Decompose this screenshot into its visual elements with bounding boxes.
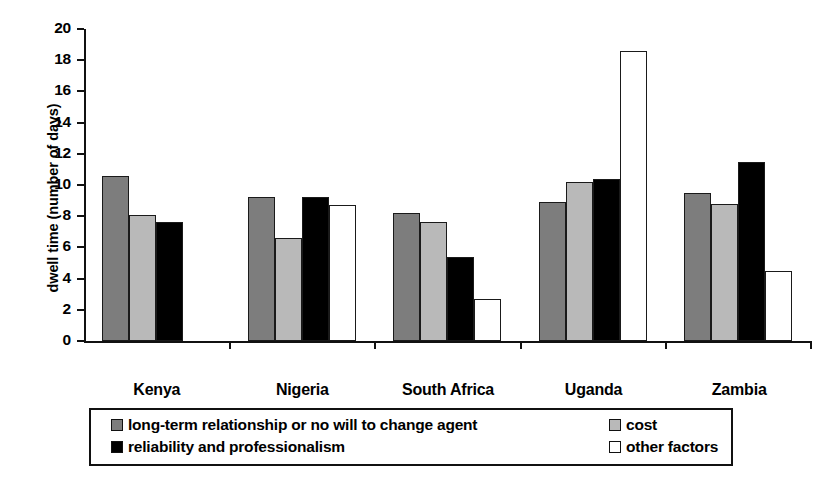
plot-area: 02468101214161820 KenyaNigeriaSouth Afri… [84, 29, 812, 341]
y-axis-tick-label: 16 [31, 81, 71, 99]
x-axis-category-label: Zambia [666, 381, 812, 399]
legend-label: reliability and professionalism [128, 438, 345, 456]
x-axis-category-label: Nigeria [230, 381, 376, 399]
x-axis-tick [374, 341, 376, 349]
bar [156, 222, 183, 341]
y-axis-tick-label: 6 [31, 237, 71, 255]
bar [765, 271, 792, 341]
x-axis-category-label: South Africa [375, 381, 521, 399]
bar-chart: dwell time (number of days) 024681012141… [0, 0, 837, 479]
x-axis-category-label: Uganda [521, 381, 667, 399]
legend-entry-long-term-relationship: long-term relationship or no will to cha… [111, 416, 477, 434]
legend-label: long-term relationship or no will to cha… [128, 416, 477, 434]
x-axis-line [84, 341, 812, 343]
bar [447, 257, 474, 341]
light-gray-swatch-icon [609, 419, 621, 431]
bar [566, 182, 593, 341]
legend-label: other factors [626, 438, 718, 456]
dark-gray-swatch-icon [111, 419, 123, 431]
bar [302, 197, 329, 341]
y-axis-tick [77, 215, 84, 217]
y-axis-tick [77, 122, 84, 124]
y-axis-tick [77, 184, 84, 186]
bar [620, 51, 647, 341]
bar [129, 215, 156, 341]
y-axis-tick-label: 18 [31, 50, 71, 68]
legend-label: cost [626, 416, 657, 434]
black-swatch-icon [111, 441, 123, 453]
bar [420, 222, 447, 341]
bar [275, 238, 302, 341]
y-axis-tick-label: 2 [31, 300, 71, 318]
x-axis-tick [520, 341, 522, 349]
y-axis-tick-label: 12 [31, 144, 71, 162]
bar [474, 299, 501, 341]
white-swatch-icon [609, 441, 621, 453]
bar [738, 162, 765, 341]
y-axis-tick [77, 59, 84, 61]
legend-entry-reliability-professionalism: reliability and professionalism [111, 438, 345, 456]
y-axis-tick [77, 153, 84, 155]
bars-layer [84, 29, 812, 341]
legend: long-term relationship or no will to cha… [89, 408, 733, 466]
x-axis-category-label: Kenya [84, 381, 230, 399]
bar [102, 176, 129, 341]
x-axis-tick [810, 341, 812, 349]
y-axis-tick-label: 14 [31, 113, 71, 131]
bar [684, 193, 711, 341]
y-axis-tick [77, 28, 84, 30]
legend-entry-other-factors: other factors [609, 438, 718, 456]
y-axis-tick-label: 0 [31, 331, 71, 349]
y-axis-tick-label: 4 [31, 269, 71, 287]
bar [711, 204, 738, 341]
bar [248, 197, 275, 341]
x-axis-tick [665, 341, 667, 349]
y-axis-tick [77, 309, 84, 311]
y-axis-tick [77, 278, 84, 280]
x-axis-tick [229, 341, 231, 349]
y-axis-tick-label: 20 [31, 19, 71, 37]
bar [393, 213, 420, 341]
y-axis-tick [77, 246, 84, 248]
y-axis-tick-label: 8 [31, 206, 71, 224]
y-axis-tick [77, 90, 84, 92]
bar [539, 202, 566, 341]
legend-entry-cost: cost [609, 416, 657, 434]
y-axis-tick-label: 10 [31, 175, 71, 193]
y-axis-tick [77, 340, 84, 342]
bar [329, 205, 356, 341]
bar [593, 179, 620, 341]
